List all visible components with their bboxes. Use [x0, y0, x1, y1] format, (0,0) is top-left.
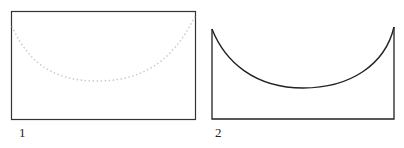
- figure-1: [12, 12, 196, 120]
- figure-1-dotted-arc: [12, 16, 195, 81]
- figure-2: [212, 27, 394, 119]
- figure-2-outline: [212, 27, 394, 119]
- figure-1-label: 1: [19, 125, 26, 141]
- diagram-canvas: [0, 0, 404, 148]
- figure-2-arc: [212, 27, 394, 88]
- figure-2-label: 2: [215, 125, 222, 141]
- figure-1-rectangle: [12, 12, 196, 120]
